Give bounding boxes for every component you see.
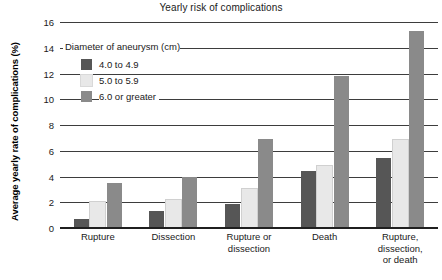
- bar: [258, 139, 273, 228]
- x-axis-category-line: dissection: [211, 243, 287, 255]
- chart-container: Yearly risk of complications Average yea…: [0, 0, 442, 280]
- y-axis-tick-label: 12: [28, 68, 54, 79]
- y-axis-tick-label: 14: [28, 42, 54, 53]
- y-axis-tick-label: 8: [28, 120, 54, 131]
- y-axis-tick-label: 6: [28, 145, 54, 156]
- bar: [149, 211, 164, 228]
- legend-swatch: [81, 75, 92, 86]
- legend-item: 4.0 to 4.9: [63, 56, 228, 72]
- x-axis-category-line: dissection,: [362, 243, 438, 255]
- y-axis-tick-label: 10: [28, 94, 54, 105]
- x-axis-category-line: Dissection: [136, 231, 212, 243]
- x-axis-category-line: Death: [287, 231, 363, 243]
- chart-title: Yearly risk of complications: [0, 2, 442, 13]
- bar: [376, 158, 391, 228]
- legend-swatch: [81, 91, 92, 102]
- x-axis-category-label: Dissection: [136, 231, 212, 243]
- x-axis-category-line: Rupture: [60, 231, 136, 243]
- legend-item-label: 5.0 to 5.9: [99, 75, 142, 86]
- y-axis-label: Average yearly rate of complications (%): [9, 32, 20, 232]
- legend-swatch: [81, 59, 92, 70]
- bar: [90, 202, 105, 228]
- x-axis-category-line: or death: [362, 254, 438, 266]
- y-axis-tick-label: 4: [28, 171, 54, 182]
- y-axis-tick-label: 16: [28, 17, 54, 28]
- legend: Diameter of aneurysm (cm) 4.0 to 4.95.0 …: [63, 36, 228, 104]
- bar: [301, 171, 316, 228]
- x-axis-category-label: Rupture ordissection: [211, 231, 287, 254]
- legend-item-label: 6.0 or greater: [99, 91, 159, 102]
- legend-title: Diameter of aneurysm (cm): [63, 41, 180, 52]
- y-axis-tick-label: 2: [28, 197, 54, 208]
- x-axis-category-line: Rupture or: [211, 231, 287, 243]
- x-axis-category-line: Rupture,: [362, 231, 438, 243]
- y-axis-tick-label: 0: [28, 223, 54, 234]
- legend-item: 5.0 to 5.9: [63, 72, 228, 88]
- bar: [107, 183, 122, 228]
- x-axis-tick-labels: RuptureDissectionRupture ordissectionDea…: [60, 231, 438, 277]
- bar: [225, 204, 240, 228]
- bar: [166, 200, 181, 228]
- x-axis-line: [60, 227, 438, 229]
- bar: [242, 189, 257, 228]
- x-axis-category-label: Death: [287, 231, 363, 243]
- bar: [334, 76, 349, 228]
- bar: [182, 177, 197, 229]
- bar: [317, 166, 332, 228]
- legend-item-label: 4.0 to 4.9: [99, 59, 142, 70]
- bar: [409, 31, 424, 228]
- x-axis-category-label: Rupture: [60, 231, 136, 243]
- legend-item: 6.0 or greater: [63, 88, 228, 104]
- legend-entries: 4.0 to 4.95.0 to 5.96.0 or greater: [63, 56, 228, 104]
- x-axis-category-label: Rupture,dissection,or death: [362, 231, 438, 266]
- bar: [393, 140, 408, 228]
